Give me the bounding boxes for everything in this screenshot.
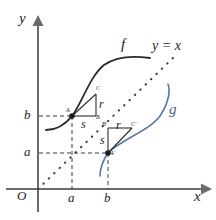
upper-rise-label-r: r: [99, 98, 104, 110]
axes-group: [6, 15, 212, 212]
x-axis-arrow: [201, 184, 212, 195]
x-tick-label-a: a: [68, 191, 75, 204]
curve-f-label: f: [121, 37, 125, 52]
y-axis-label: y: [19, 11, 26, 26]
point-A-prime-label: A': [110, 150, 115, 156]
curve-g: [100, 84, 169, 176]
point-B-label: B: [96, 114, 100, 120]
point-C-label: C: [96, 85, 100, 91]
upper-triangle-hypotenuse: [72, 94, 96, 116]
upper-triangle-group: [72, 94, 96, 116]
point-B-prime-label: B': [102, 121, 107, 127]
math-figure: y x O b a a b f g y = x A B C r s A' B' …: [0, 0, 216, 220]
diagram-canvas: [0, 0, 216, 220]
point-C-prime-label: C': [131, 121, 136, 127]
identity-line-label: y = x: [152, 39, 181, 53]
point-A-label: A: [66, 107, 70, 113]
x-tick-label-b: b: [104, 191, 111, 204]
lower-run-label-s: s: [100, 134, 105, 146]
curve-g-label: g: [169, 102, 177, 117]
origin-label: O: [17, 189, 26, 202]
y-tick-label-b: b: [24, 108, 31, 121]
y-axis-arrow: [33, 15, 44, 26]
y-tick-label-a: a: [24, 145, 31, 158]
x-axis-label: x: [194, 189, 201, 204]
point-A-marker: [69, 113, 75, 119]
upper-run-label-s: s: [81, 118, 86, 130]
lower-rise-label-r: r: [116, 119, 121, 131]
